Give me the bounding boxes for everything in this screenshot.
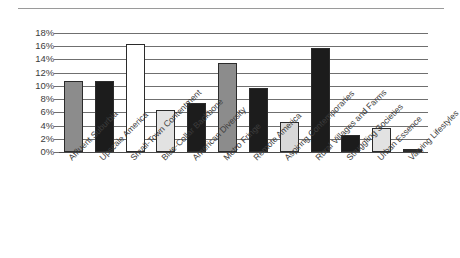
gridline	[58, 33, 428, 34]
y-axis-tick-mark	[54, 126, 59, 127]
y-axis-tick-label: 6%	[14, 107, 54, 117]
y-axis-tick-mark	[54, 33, 59, 34]
y-axis-tick-mark	[54, 73, 59, 74]
x-axis-category-labels: Affluent SuburbiaUpscale AmericaSmall-To…	[0, 152, 460, 258]
y-axis-tick-labels: 0%2%4%6%8%10%12%14%16%18%	[10, 33, 54, 152]
y-axis-tick-label: 16%	[14, 41, 54, 51]
y-axis-tick-mark	[54, 86, 59, 87]
y-axis-tick-mark	[54, 152, 59, 153]
y-axis-tick-mark	[54, 112, 59, 113]
bar-chart-figure: 0%2%4%6%8%10%12%14%16%18% Affluent Subur…	[0, 0, 460, 258]
y-axis-tick-label: 10%	[14, 81, 54, 91]
y-axis-tick-label: 12%	[14, 68, 54, 78]
y-axis-tick-label: 14%	[14, 54, 54, 64]
gridline	[58, 46, 428, 47]
y-axis-tick-label: 4%	[14, 121, 54, 131]
y-axis-tick-mark	[54, 139, 59, 140]
gridline	[58, 73, 428, 74]
gridline	[58, 59, 428, 60]
y-axis-tick-mark	[54, 99, 59, 100]
y-axis-tick-mark	[54, 59, 59, 60]
y-axis-tick-label: 18%	[14, 28, 54, 38]
y-axis-tick-label: 2%	[14, 134, 54, 144]
top-divider-rule	[18, 8, 444, 9]
y-axis-tick-label: 8%	[14, 94, 54, 104]
y-axis-tick-mark	[54, 46, 59, 47]
